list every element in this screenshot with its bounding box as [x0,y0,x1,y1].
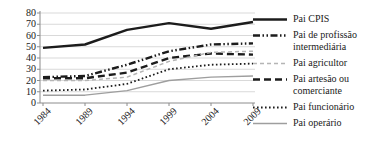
y-tick-label: 40 [8,53,36,63]
y-tick-label: 30 [8,64,36,74]
legend-item: Pai CPIS [253,13,380,25]
y-tick-label: 0 [8,98,36,108]
y-tick-label: 20 [8,76,36,86]
legend-item: Pai agricultor [253,57,380,69]
legend-item: Pai operário [253,117,380,129]
legend-swatch [253,32,287,39]
series-line-pai-cpis [43,22,253,48]
y-tick-label: 50 [8,42,36,52]
series-line-pai-operario [43,76,253,95]
legend-swatch [253,60,287,67]
legend-swatch [253,16,287,23]
legend-label: Pai de profissão intermediária [293,29,375,53]
legend-item: Pai de profissão intermediária [253,29,380,53]
y-tick-label: 10 [8,87,36,97]
legend-item: Pai artesão ou comerciante [253,73,380,97]
legend-swatch [253,104,287,111]
legend-label: Pai artesão ou comerciante [293,73,375,97]
y-tick-label: 70 [8,19,36,29]
legend-label: Pai funcionário [293,101,354,113]
y-tick-label: 60 [8,31,36,41]
legend: Pai CPISPai de profissão intermediáriaPa… [253,13,380,129]
series-line-pai-profissao-intermediaria [43,43,253,77]
legend-label: Pai operário [293,117,342,129]
legend-swatch [253,76,287,83]
y-tick-label: 80 [8,8,36,18]
legend-label: Pai agricultor [293,57,347,69]
legend-swatch [253,120,287,127]
line-chart-figure: 01020304050607080 1984198919941999200420… [0,0,381,149]
legend-item: Pai funcionário [253,101,380,113]
legend-label: Pai CPIS [293,13,329,25]
